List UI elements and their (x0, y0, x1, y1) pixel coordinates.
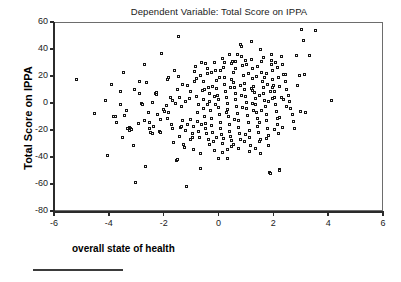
scatter-point (302, 39, 305, 42)
scatter-point (277, 76, 280, 79)
scatter-point (189, 118, 192, 121)
x-axis-tick-label: -6 (39, 218, 69, 228)
scatter-point (174, 102, 177, 105)
scatter-point (276, 66, 279, 69)
scatter-point (300, 28, 303, 31)
y-axis-tick-label: -80 (8, 205, 48, 215)
y-axis-tick (50, 156, 54, 157)
scatter-point (198, 136, 201, 139)
scatter-point (189, 90, 192, 93)
scatter-point (218, 113, 221, 116)
scatter-point (266, 127, 269, 130)
scatter-point (200, 61, 203, 64)
scatter-point (293, 127, 296, 130)
scatter-point (159, 131, 162, 134)
scatter-point (197, 130, 200, 133)
plot-frame (54, 22, 383, 211)
scatter-point (244, 133, 247, 136)
x-axis-tick (382, 212, 383, 216)
scatter-point (226, 148, 229, 151)
scatter-point (226, 102, 229, 105)
scatter-point (222, 137, 225, 140)
scatter-point (232, 71, 235, 74)
scatter-point (199, 167, 202, 170)
scatter-point (145, 81, 148, 84)
scatter-point (262, 92, 265, 95)
scatter-point (171, 127, 174, 130)
scatter-point (251, 77, 254, 80)
scatter-point (225, 96, 228, 99)
scatter-point (227, 115, 230, 118)
scatter-point (207, 138, 210, 141)
scatter-point (264, 105, 267, 108)
scatter-point (106, 154, 109, 157)
scatter-point (230, 78, 233, 81)
scatter-point (246, 114, 249, 117)
scatter-point (251, 67, 254, 70)
scatter-point (240, 45, 243, 48)
scatter-point (156, 113, 159, 116)
scatter-point (284, 80, 287, 83)
scatter-plot-area (55, 23, 382, 210)
scatter-point (172, 141, 175, 144)
y-axis-tick-label: -20 (8, 124, 48, 134)
scatter-point (115, 121, 118, 124)
x-axis-tick (218, 212, 219, 216)
scatter-point (282, 98, 285, 101)
scatter-point (208, 92, 211, 95)
scatter-point (173, 69, 176, 72)
scatter-point (233, 86, 236, 89)
scatter-point (245, 101, 248, 104)
scatter-point (237, 147, 240, 150)
scatter-point (119, 103, 122, 106)
x-axis-tick-label: 0 (204, 218, 234, 228)
scatter-point (155, 91, 158, 94)
scatter-point (165, 104, 168, 107)
scatter-point (245, 107, 248, 110)
scatter-point (258, 94, 261, 97)
x-axis-tick-label: -4 (94, 218, 124, 228)
scatter-point (243, 88, 246, 91)
scatter-point (221, 142, 224, 145)
scatter-point (229, 86, 232, 89)
scatter-point (277, 132, 280, 135)
scatter-point (180, 105, 183, 108)
scatter-point (138, 92, 141, 95)
scatter-point (233, 118, 236, 121)
x-axis-tick-label: 6 (368, 218, 398, 228)
scatter-point (230, 139, 233, 142)
x-axis-tick-label: 4 (313, 218, 343, 228)
scatter-point (220, 133, 223, 136)
scatter-point (256, 125, 259, 128)
scatter-point (270, 63, 273, 66)
scatter-point (251, 89, 254, 92)
scatter-point (75, 78, 78, 81)
scatter-point (207, 86, 210, 89)
scatter-point (104, 99, 107, 102)
scatter-point (217, 157, 220, 160)
x-axis-tick (273, 212, 274, 216)
scatter-point (223, 83, 226, 86)
scatter-point (176, 158, 179, 161)
y-axis-tick-label: -60 (8, 178, 48, 188)
scatter-point (218, 76, 221, 79)
scatter-point (188, 97, 191, 100)
scatter-point (281, 126, 284, 129)
scatter-point (132, 144, 135, 147)
scatter-point (203, 115, 206, 118)
scatter-point (217, 106, 220, 109)
scatter-point (133, 88, 136, 91)
scatter-point (250, 58, 253, 61)
scatter-point (258, 140, 261, 143)
scatter-point (257, 131, 260, 134)
scatter-point (193, 80, 196, 83)
scatter-point (125, 109, 128, 112)
scatter-point (243, 82, 246, 85)
scatter-point (215, 87, 218, 90)
scatter-point (214, 103, 217, 106)
scatter-point (219, 127, 222, 130)
scatter-point (206, 67, 209, 70)
scatter-point (204, 122, 207, 125)
chart-page: Dependent Variable: Total Score on IPPA … (0, 0, 401, 282)
scatter-point (267, 100, 270, 103)
